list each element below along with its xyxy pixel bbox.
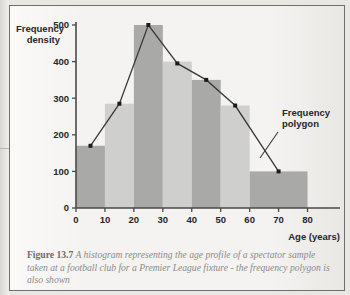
- annotation-leader-line: [260, 132, 278, 158]
- histogram-bar: [192, 80, 221, 208]
- x-axis-tick-label: 20: [129, 214, 140, 225]
- histogram-chart: 010020030040050001020304050607080Frequen…: [10, 6, 346, 246]
- figure-page: 010020030040050001020304050607080Frequen…: [0, 0, 350, 295]
- frequency-polygon-point: [277, 169, 281, 173]
- frequency-polygon-point: [88, 144, 92, 148]
- frequency-polygon-point: [204, 78, 208, 82]
- y-axis-title: Frequency: [16, 23, 65, 34]
- y-axis-tick-label: 100: [53, 166, 69, 177]
- frequency-polygon-point: [146, 23, 150, 27]
- x-axis-tick-label: 40: [186, 214, 197, 225]
- y-axis-title: density: [27, 34, 61, 45]
- frequency-polygon-point: [233, 104, 237, 108]
- paper-sheet: 010020030040050001020304050607080Frequen…: [9, 5, 345, 291]
- y-axis-tick-label: 0: [64, 202, 69, 213]
- x-axis-tick-label: 0: [73, 214, 78, 225]
- x-axis-tick-label: 60: [244, 214, 255, 225]
- frequency-polygon-point: [117, 102, 121, 106]
- y-axis-tick-label: 300: [53, 93, 69, 104]
- figure-caption-text: A histogram representing the age profile…: [27, 249, 330, 285]
- x-axis-tick-label: 80: [302, 214, 313, 225]
- x-axis-tick-label: 50: [215, 214, 226, 225]
- chart-svg: 010020030040050001020304050607080Frequen…: [10, 6, 346, 246]
- histogram-bar: [163, 62, 192, 208]
- x-axis-tick-label: 30: [158, 214, 169, 225]
- x-axis-tick-label: 70: [273, 214, 284, 225]
- x-axis-tick-label: 10: [100, 214, 111, 225]
- frequency-polygon-point: [175, 61, 179, 65]
- y-axis-tick-label: 200: [53, 129, 69, 140]
- figure-label: Figure 13.7: [27, 249, 73, 260]
- histogram-bar: [250, 171, 308, 208]
- histogram-bar: [76, 146, 105, 208]
- annotation-label: polygon: [282, 118, 319, 129]
- annotation-label: Frequency: [282, 107, 331, 118]
- figure-caption: Figure 13.7 A histogram representing the…: [27, 249, 332, 287]
- x-axis-title: Age (years): [288, 231, 340, 242]
- y-axis-tick-label: 400: [53, 56, 69, 67]
